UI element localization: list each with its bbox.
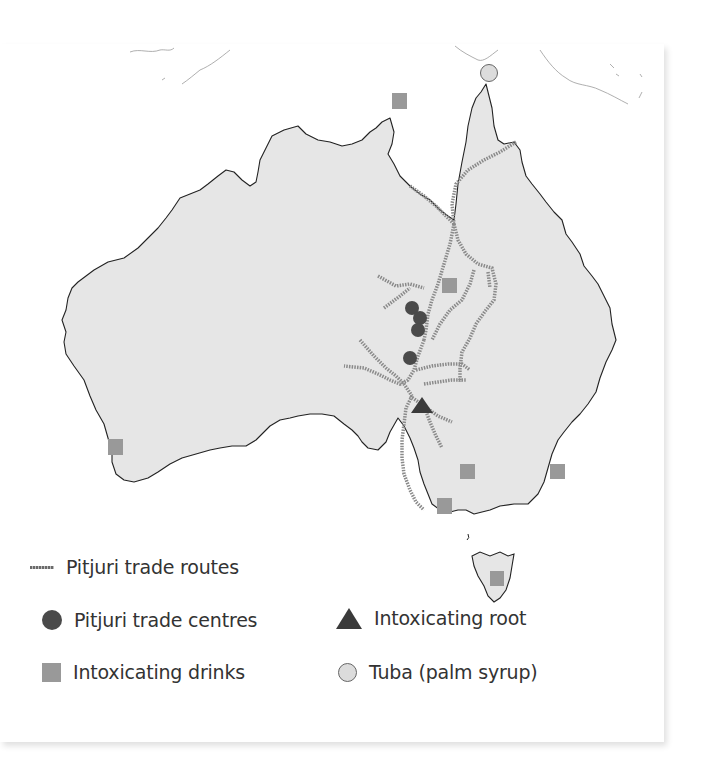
trade-centre-marker bbox=[403, 351, 417, 365]
drink-marker bbox=[442, 278, 457, 293]
neighbouring-islands bbox=[130, 46, 642, 104]
drink-marker bbox=[437, 498, 452, 514]
legend-label: Tuba (palm syrup) bbox=[369, 661, 538, 683]
map-card: Pitjuri trade routes Pitjuri trade centr… bbox=[0, 44, 664, 742]
trade-centre-marker bbox=[413, 311, 427, 325]
tuba-marker bbox=[481, 65, 498, 82]
legend-item-tuba: Tuba (palm syrup) bbox=[338, 661, 538, 683]
dark-circle-icon bbox=[42, 610, 62, 630]
trade-centre-marker bbox=[411, 323, 425, 337]
drink-marker bbox=[108, 439, 123, 455]
drink-marker bbox=[550, 464, 565, 479]
drink-marker bbox=[460, 464, 475, 479]
legend-item-root: Intoxicating root bbox=[336, 607, 526, 629]
legend-label: Intoxicating root bbox=[374, 607, 526, 629]
legend-item-centres: Pitjuri trade centres bbox=[42, 609, 257, 631]
drink-marker bbox=[392, 93, 407, 109]
legend-item-drinks: Intoxicating drinks bbox=[42, 661, 245, 683]
legend-label: Intoxicating drinks bbox=[73, 661, 245, 683]
light-circle-icon bbox=[338, 663, 357, 682]
triangle-icon bbox=[336, 608, 362, 629]
gray-square-icon bbox=[42, 663, 61, 682]
drink-marker bbox=[490, 571, 504, 586]
legend-label: Pitjuri trade centres bbox=[74, 609, 257, 631]
mainland-australia bbox=[62, 84, 616, 514]
australia-map bbox=[0, 44, 664, 604]
